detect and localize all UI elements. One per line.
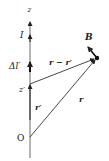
r-label: r <box>79 94 84 104</box>
z-prime-label: z′ <box>18 85 25 94</box>
current-label: I <box>19 30 24 40</box>
origin-label: O <box>17 133 24 143</box>
field-b-arrow <box>88 47 97 58</box>
z-axis-label: z <box>27 6 32 14</box>
field-label: B <box>84 32 93 42</box>
r-minus-r-prime-label: r − r′ <box>49 57 73 67</box>
r-prime-label: r′ <box>35 102 42 112</box>
element-label: Δl′ <box>8 61 20 71</box>
biot-savart-diagram: z I Δl′ z′ r′ O B r r − r′ <box>0 0 109 161</box>
